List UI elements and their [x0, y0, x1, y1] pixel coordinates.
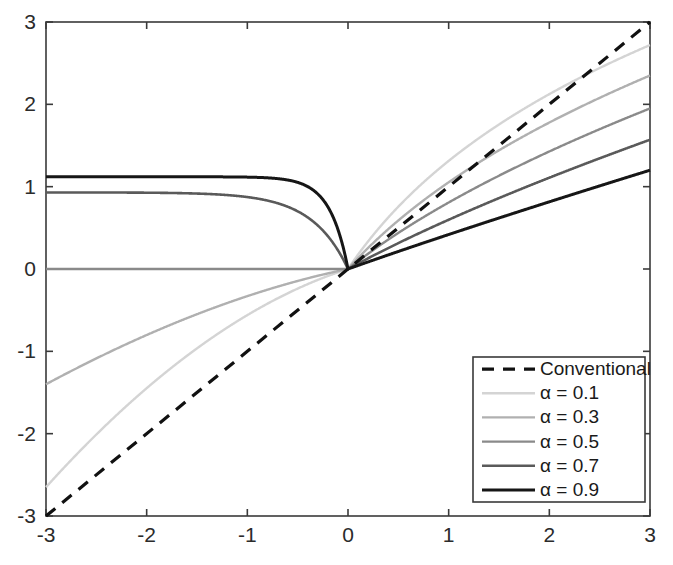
- legend-label-alpha-0.7: α = 0.7: [540, 455, 599, 476]
- legend-label-Conventional: Conventional: [540, 358, 651, 379]
- x-tick-label: 0: [342, 523, 354, 546]
- x-tick-label: 2: [543, 523, 555, 546]
- power-transform-line-chart: -3-2-10123 -3-2-10123 Conventionalα = 0.…: [0, 0, 673, 565]
- y-tick-label: 3: [24, 10, 36, 33]
- x-tick-label: 3: [644, 523, 656, 546]
- x-tick-label: -3: [37, 523, 56, 546]
- legend-label-alpha-0.1: α = 0.1: [540, 382, 599, 403]
- legend-label-alpha-0.3: α = 0.3: [540, 406, 599, 427]
- x-tick-label: 1: [443, 523, 455, 546]
- y-tick-label: -3: [17, 504, 36, 527]
- y-tick-label: 2: [24, 92, 36, 115]
- x-tick-label: -2: [137, 523, 156, 546]
- y-tick-label: 0: [24, 257, 36, 280]
- legend-label-alpha-0.5: α = 0.5: [540, 431, 599, 452]
- chart-figure: -3-2-10123 -3-2-10123 Conventionalα = 0.…: [0, 0, 673, 565]
- chart-legend: Conventionalα = 0.1α = 0.3α = 0.5α = 0.7…: [473, 357, 651, 502]
- x-tick-label: -1: [238, 523, 257, 546]
- legend-label-alpha-0.9: α = 0.9: [540, 479, 599, 500]
- y-tick-label: -1: [17, 339, 36, 362]
- y-tick-label: 1: [24, 175, 36, 198]
- y-tick-label: -2: [17, 422, 36, 445]
